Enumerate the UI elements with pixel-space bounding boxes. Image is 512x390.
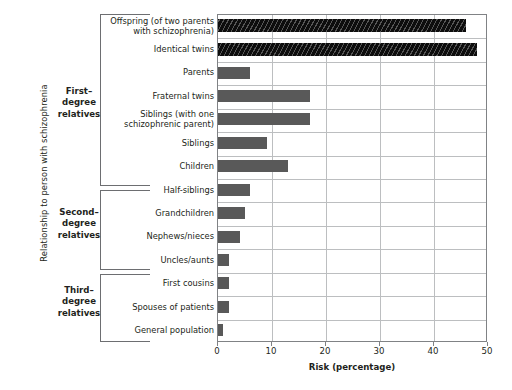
bar-row: Parents bbox=[0, 61, 512, 84]
bar-category-label-line-1: Half-siblings bbox=[64, 185, 214, 195]
x-axis-tick-label: 40 bbox=[418, 346, 448, 356]
bar-category-label: Offspring (of two parentswith schizophre… bbox=[64, 16, 214, 36]
bar-row: First cousins bbox=[0, 272, 512, 295]
bar-category-label: Half-siblings bbox=[64, 185, 214, 195]
bar-category-label-line-2: with schizophrenia) bbox=[64, 26, 214, 36]
bar-row: Siblings bbox=[0, 131, 512, 154]
bar-category-label-line-1: Identical twins bbox=[64, 44, 214, 54]
bar bbox=[218, 301, 229, 313]
bar bbox=[218, 277, 229, 289]
bar-category-label-line-1: First cousins bbox=[64, 278, 214, 288]
bar bbox=[218, 67, 250, 79]
bar-category-label: Spouses of patients bbox=[64, 302, 214, 312]
bar-category-label: Children bbox=[64, 161, 214, 171]
bar-rows: Offspring (of two parentswith schizophre… bbox=[0, 14, 512, 342]
bar bbox=[218, 207, 245, 219]
bar-category-label-line-1: Nephews/nieces bbox=[64, 231, 214, 241]
x-axis-tick-label: 20 bbox=[310, 346, 340, 356]
x-axis-tick-label: 0 bbox=[202, 346, 232, 356]
bar-category-label-line-1: General population bbox=[64, 325, 214, 335]
bar-row: General population bbox=[0, 319, 512, 342]
bar bbox=[218, 137, 267, 149]
bar bbox=[218, 160, 288, 172]
bar-category-label-line-1: Children bbox=[64, 161, 214, 171]
bar bbox=[218, 324, 223, 336]
bar-category-label-line-1: Fraternal twins bbox=[64, 91, 214, 101]
x-axis-tick-label: 10 bbox=[256, 346, 286, 356]
bar-row: Spouses of patients bbox=[0, 295, 512, 318]
bar-category-label-line-1: Grandchildren bbox=[64, 208, 214, 218]
bar-row: Fraternal twins bbox=[0, 84, 512, 107]
bar-category-label-line-1: Parents bbox=[64, 67, 214, 77]
bar-category-label-line-1: Offspring (of two parents bbox=[64, 16, 214, 26]
x-axis-title: Risk (percentage) bbox=[217, 362, 487, 372]
bar-category-label-line-1: Siblings (with one bbox=[64, 109, 214, 119]
bar-row: Children bbox=[0, 155, 512, 178]
bar-category-label: Grandchildren bbox=[64, 208, 214, 218]
bar bbox=[218, 254, 229, 266]
bar bbox=[218, 90, 310, 102]
bar bbox=[218, 43, 477, 56]
bar-row: Uncles/aunts bbox=[0, 248, 512, 271]
bar-category-label: General population bbox=[64, 325, 214, 335]
bar bbox=[218, 19, 466, 32]
bar-category-label-line-1: Siblings bbox=[64, 138, 214, 148]
bar-category-label: Uncles/aunts bbox=[64, 255, 214, 265]
schizophrenia-risk-chart: Relationship to person with schizophreni… bbox=[0, 0, 512, 390]
bar-category-label-line-1: Spouses of patients bbox=[64, 302, 214, 312]
bar-row: Grandchildren bbox=[0, 201, 512, 224]
bar-row: Siblings (with oneschizophrenic parent) bbox=[0, 108, 512, 131]
bar-row: Nephews/nieces bbox=[0, 225, 512, 248]
bar-category-label: Nephews/nieces bbox=[64, 231, 214, 241]
bar-row: Half-siblings bbox=[0, 178, 512, 201]
bar bbox=[218, 231, 240, 243]
bar-category-label: Siblings (with oneschizophrenic parent) bbox=[64, 109, 214, 129]
bar-category-label: Fraternal twins bbox=[64, 91, 214, 101]
bar-category-label-line-1: Uncles/aunts bbox=[64, 255, 214, 265]
x-axis-tick-label: 30 bbox=[364, 346, 394, 356]
bar-category-label: Identical twins bbox=[64, 44, 214, 54]
bar-row: Offspring (of two parentswith schizophre… bbox=[0, 14, 512, 37]
bar-category-label: Siblings bbox=[64, 138, 214, 148]
x-axis-tick-label: 50 bbox=[472, 346, 502, 356]
bar-category-label-line-2: schizophrenic parent) bbox=[64, 119, 214, 129]
bar-row: Identical twins bbox=[0, 37, 512, 60]
bar bbox=[218, 113, 310, 125]
bar-category-label: First cousins bbox=[64, 278, 214, 288]
bar bbox=[218, 184, 250, 196]
bar-category-label: Parents bbox=[64, 67, 214, 77]
